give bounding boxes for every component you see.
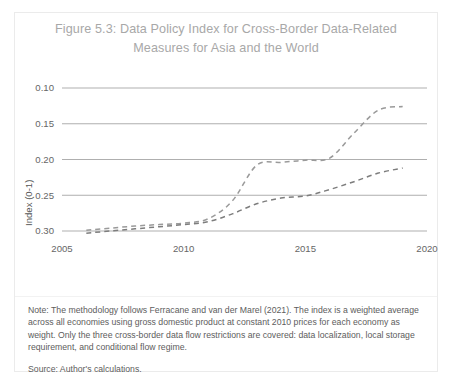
data-series-group — [86, 107, 402, 234]
y-axis-tick-label: 0.30 — [35, 225, 54, 236]
legend-label-asia: Asia — [189, 270, 209, 271]
y-axis-tick-label: 0.15 — [35, 118, 54, 129]
x-axis-tick-label: 2005 — [51, 243, 72, 254]
y-axis-tick-label: 0.10 — [35, 82, 54, 93]
y-axis-tick-label: 0.25 — [35, 190, 54, 201]
source-text: Source: Author's calculations. — [28, 363, 426, 375]
series-line-world — [86, 168, 402, 233]
figure-title: Figure 5.3: Data Policy Index for Cross-… — [30, 20, 422, 58]
x-axis-tick-labels: 2005201020152020 — [51, 243, 437, 254]
y-axis-tick-labels: 0.100.150.200.250.30 — [35, 82, 54, 236]
chart-legend: AsiaWorld — [152, 270, 305, 271]
note-block: Note: The methodology follows Ferracane … — [28, 304, 426, 375]
note-divider — [15, 296, 437, 297]
legend-label-world: World — [280, 270, 305, 271]
series-line-asia — [86, 107, 402, 231]
y-axis-title: Index (0-1) — [23, 180, 34, 226]
line-chart: 0.100.150.200.250.30 2005201020152020 In… — [0, 66, 452, 271]
gridlines-group — [62, 88, 427, 231]
x-axis-tick-label: 2015 — [295, 243, 316, 254]
x-axis-tick-label: 2010 — [173, 243, 194, 254]
x-axis-tick-label: 2020 — [416, 243, 437, 254]
y-axis-tick-label: 0.20 — [35, 154, 54, 165]
note-text: Note: The methodology follows Ferracane … — [28, 304, 426, 354]
chart-plot-area: 0.100.150.200.250.30 2005201020152020 In… — [0, 66, 452, 271]
